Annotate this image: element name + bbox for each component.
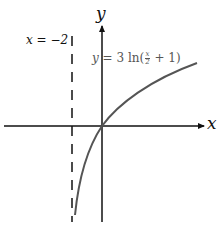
y-axis-label: y	[96, 3, 106, 23]
x-axis-label: x	[207, 113, 217, 133]
equation-label: y = 3 ln(x2 + 1)	[92, 51, 181, 66]
equation-tail: + 1)	[151, 51, 181, 65]
asymptote-label: x = −2	[26, 33, 68, 47]
equation-middle: = 3 ln(	[99, 51, 144, 65]
equation-fraction: x2	[145, 51, 149, 66]
function-curve	[75, 63, 197, 215]
fraction-denominator: 2	[145, 59, 149, 66]
equation-y: y	[92, 51, 99, 65]
